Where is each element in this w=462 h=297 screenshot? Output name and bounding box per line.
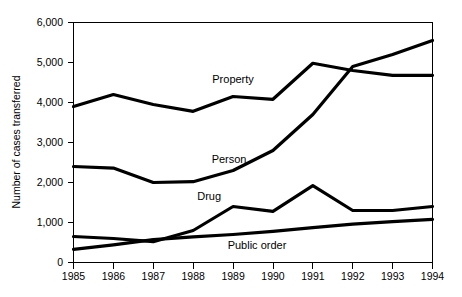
y-tick-label-6000: 6,000 [37,16,63,28]
y-tick-label-3000: 3,000 [37,136,63,148]
y-tick-label-4000: 4,000 [37,96,63,108]
line-chart: 0 1,000 2,000 3,000 4,000 5,000 6,000 Nu… [0,0,462,297]
y-axis: 0 1,000 2,000 3,000 4,000 5,000 6,000 [37,16,74,268]
y-tick-label-0: 0 [57,256,63,268]
x-axis: 1985 1986 1987 1988 1989 1990 1991 1992 … [62,263,445,283]
x-tick-label-1988: 1988 [182,270,206,282]
x-tick-label-1986: 1986 [102,270,126,282]
series-line-person [74,41,433,183]
series-label-person: Person [212,153,247,165]
x-tick-label-1992: 1992 [341,270,365,282]
series-label-public-order: Public order [228,239,287,251]
x-tick-label-1991: 1991 [301,270,325,282]
y-tick-label-1000: 1,000 [37,216,63,228]
x-tick-label-1987: 1987 [142,270,166,282]
x-tick-label-1985: 1985 [62,270,86,282]
x-tick-label-1993: 1993 [381,270,405,282]
chart-figure: 0 1,000 2,000 3,000 4,000 5,000 6,000 Nu… [0,0,462,297]
series-label-drug: Drug [197,190,221,202]
x-tick-label-1994: 1994 [421,270,445,282]
series-group [74,41,433,250]
x-tick-label-1990: 1990 [261,270,285,282]
y-tick-label-5000: 5,000 [37,56,63,68]
y-axis-title: Number of cases transferred [10,75,22,208]
series-line-property [74,63,433,111]
series-label-property: Property [212,73,254,85]
y-tick-label-2000: 2,000 [37,176,63,188]
x-tick-label-1989: 1989 [221,270,245,282]
